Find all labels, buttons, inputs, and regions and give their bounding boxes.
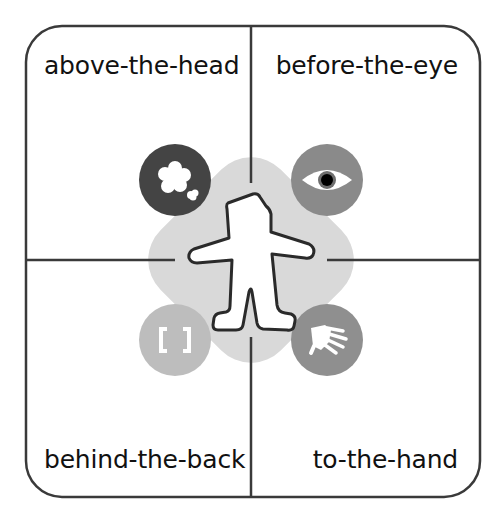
quadrant-diagram: above-the-head before-the-eye behind-the…: [0, 0, 502, 517]
behind-the-back-circle: [139, 304, 211, 376]
quadrant-label-to-the-hand: to-the-hand: [313, 447, 458, 472]
quadrant-label-above-the-head: above-the-head: [44, 53, 239, 78]
above-the-head-circle: [139, 144, 211, 216]
before-the-eye-circle: [291, 144, 363, 216]
quadrant-label-before-the-eye: before-the-eye: [276, 53, 458, 78]
to-the-hand-circle: [291, 304, 363, 376]
quadrant-label-behind-the-back: behind-the-back: [44, 447, 245, 472]
